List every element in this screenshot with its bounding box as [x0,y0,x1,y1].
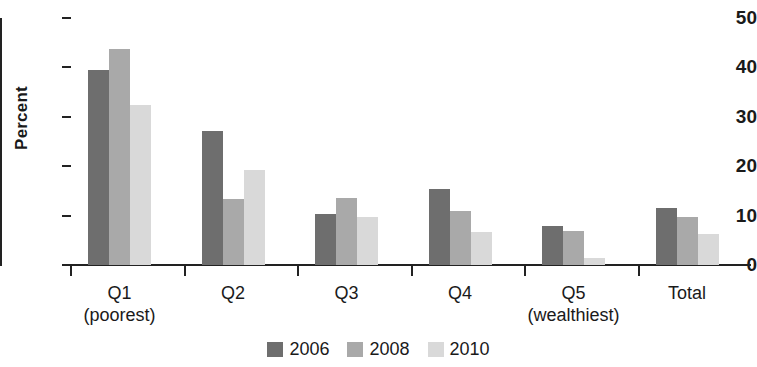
legend-item-2006: 2006 [267,340,329,358]
x-axis-tick-mark [70,266,72,276]
bar-2006-Total [656,208,677,265]
bar-2006-Q5 [542,226,563,265]
x-axis-tick-mark [524,266,526,276]
bar-2006-Q4 [429,189,450,265]
bar-2008-Total [677,217,698,265]
bar-2010-Q5 [584,258,605,265]
x-axis-label-main: Q5 [561,283,585,303]
x-axis-label-main: Q1 [107,283,131,303]
x-axis-tick-mark [184,266,186,276]
legend-swatch-icon [347,342,363,357]
legend-label: 2010 [450,340,490,358]
legend-swatch-icon [428,342,444,357]
bar-group [638,18,752,265]
bar-group [70,18,184,265]
bar-2010-Q1 [130,105,151,265]
bar-2008-Q3 [336,198,357,265]
bars-layer [70,18,751,265]
x-axis-label-total: Total [617,282,757,304]
x-axis-tick-mark [297,266,299,276]
x-axis-label-main: Q3 [334,283,358,303]
y-axis-title: Percent [12,58,32,178]
bar-group [411,18,525,265]
x-axis-label-sub: (wealthiest) [504,304,644,326]
x-axis-label-sub: (poorest) [50,304,190,326]
bar-chart: Percent 01020304050 Q1(poorest)Q2Q3Q4Q5(… [0,0,757,367]
bar-2008-Q1 [109,49,130,265]
y-axis-line [0,18,2,266]
bar-2008-Q5 [563,231,584,265]
chart-legend: 200620082010 [0,340,757,358]
legend-swatch-icon [267,342,283,357]
legend-item-2008: 2008 [347,340,409,358]
legend-item-2010: 2010 [428,340,490,358]
x-axis-label-main: Q4 [448,283,472,303]
x-axis-tick-mark [638,266,640,276]
bar-2008-Q2 [223,199,244,265]
bar-2006-Q3 [315,214,336,265]
x-axis-tick-mark [411,266,413,276]
x-axis-label-main: Total [668,283,706,303]
bar-2008-Q4 [450,211,471,265]
bar-2010-Q3 [357,217,378,265]
bar-group [524,18,638,265]
bar-group [184,18,298,265]
bar-2010-Total [698,234,719,265]
bar-group [297,18,411,265]
bar-2010-Q4 [471,232,492,265]
bar-2006-Q1 [88,70,109,265]
bar-2006-Q2 [202,131,223,265]
x-axis-label-main: Q2 [221,283,245,303]
legend-label: 2006 [289,340,329,358]
legend-label: 2008 [369,340,409,358]
bar-2010-Q2 [244,170,265,265]
